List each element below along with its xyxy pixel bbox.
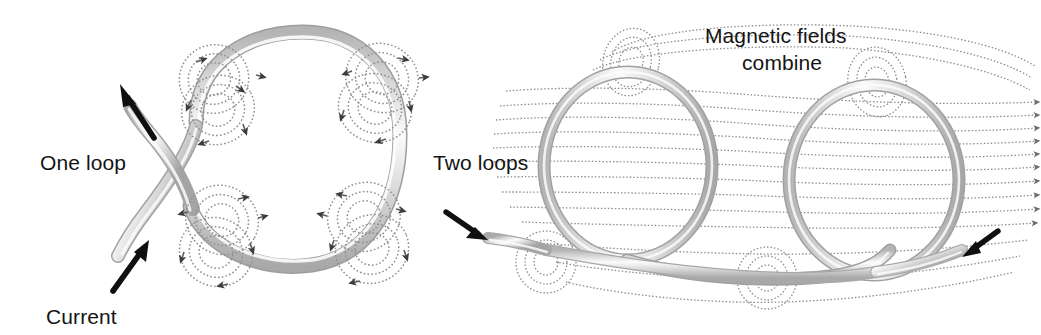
field-arrow — [341, 110, 344, 119]
label-one-loop: One loop — [40, 151, 126, 174]
label-current: Current — [46, 305, 117, 328]
field-arrow — [377, 139, 386, 142]
two-loops-left-wire — [544, 72, 712, 260]
field-line — [522, 222, 1036, 228]
arrow-head — [120, 84, 136, 107]
field-arrow — [181, 252, 184, 261]
field-arrow — [351, 281, 360, 283]
right-loop-highlight — [789, 85, 959, 275]
label-combine: combine — [742, 51, 822, 74]
field-circles-top-right — [328, 31, 431, 154]
magnetic-field-figure: One loop Current — [0, 0, 1041, 335]
field-arrow — [196, 59, 205, 62]
field-arrow — [258, 216, 266, 218]
field-ring — [328, 63, 422, 154]
field-line — [496, 117, 1038, 131]
label-magnetic-fields: Magnetic fields — [705, 24, 847, 47]
label-two-loops: Two loops — [433, 151, 528, 174]
field-circles-top-left — [166, 31, 267, 157]
eddy-ring — [606, 33, 657, 91]
figure-canvas: One loop Current — [0, 0, 1041, 335]
field-line — [500, 103, 1038, 117]
one-loop-wire — [118, 32, 400, 266]
field-arrow — [396, 209, 404, 211]
field-arrow — [200, 141, 209, 144]
eddy-ring — [596, 22, 667, 102]
eddy-top-left-loop — [596, 22, 667, 102]
field-arrow — [256, 75, 264, 77]
field-arrow — [238, 197, 247, 199]
two-loops-right-wire — [789, 85, 959, 275]
panel-one-loop: One loop Current — [40, 31, 431, 328]
field-arrow — [404, 250, 407, 259]
field-arrow — [338, 194, 347, 196]
field-arrow — [331, 240, 334, 249]
two-loops-left-arrow — [446, 212, 488, 240]
two-loops-right-arrow — [962, 231, 998, 257]
left-loop-highlight — [544, 72, 712, 260]
field-arrow — [319, 214, 327, 216]
panel-two-loops: Two loops Magnetic fields combine — [433, 22, 1038, 309]
field-arrow — [419, 77, 427, 78]
field-arrow — [398, 58, 407, 60]
